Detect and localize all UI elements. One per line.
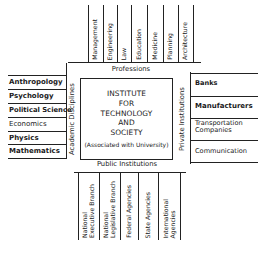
discipline-item: Anthropology [9, 78, 63, 86]
public-institutions-heading: Public Institutions [84, 160, 170, 168]
profession-label: Management [92, 19, 99, 60]
divider [193, 5, 194, 62]
public-institution-label: Federal Agencies [126, 185, 133, 238]
divider [8, 144, 66, 145]
public-institution-label: InternationalAgencies [163, 199, 176, 239]
discipline-item: Mathematics [9, 147, 60, 155]
profession-item: Education [131, 6, 147, 60]
public-institution-label: NationalLegislative Branch [103, 181, 116, 238]
divider [180, 172, 181, 240]
profession-label: Engineering [107, 23, 114, 60]
academic-disciplines-heading: Academic Disciplines [68, 80, 76, 158]
public-institution-item: NationalExecutive Branch [79, 175, 99, 238]
profession-label: Education [136, 29, 143, 60]
public-institution-item: InternationalAgencies [159, 175, 180, 238]
label-line: Agencies [169, 210, 176, 238]
divider [190, 140, 258, 141]
profession-item: Management [88, 6, 103, 60]
profession-label: Medicine [152, 32, 159, 60]
label-line: Executive Branch [88, 184, 95, 238]
divider [190, 162, 258, 163]
profession-item: Law [117, 6, 131, 60]
private-institutions-heading: Private Institutions [178, 80, 186, 158]
professions-heading: Professions [92, 65, 170, 73]
profession-item: Architecture [178, 6, 193, 60]
profession-label: Planning [167, 33, 174, 60]
discipline-item: Political Science [9, 106, 72, 114]
institute-title-line: TECHNOLOGY [81, 109, 172, 119]
profession-item: Planning [163, 6, 178, 60]
profession-label: Law [121, 48, 128, 60]
divider [8, 75, 66, 76]
institute-box: INSTITUTE FOR TECHNOLOGY AND SOCIETY (As… [80, 78, 173, 160]
divider [8, 158, 66, 159]
discipline-item: Psychology [9, 92, 53, 100]
institute-title-line: AND [81, 118, 172, 128]
divider [8, 117, 66, 118]
private-institution-item: Transportation Companies [195, 120, 243, 135]
public-institution-item: Federal Agencies [121, 175, 138, 238]
discipline-item: Physics [9, 134, 39, 142]
private-institution-line: Companies [195, 127, 243, 134]
profession-item: Engineering [103, 6, 117, 60]
divider [8, 131, 66, 132]
profession-item: Medicine [147, 6, 163, 60]
private-institution-item: Manufacturers [195, 103, 253, 110]
divider [190, 73, 258, 74]
divider [8, 103, 66, 104]
private-institution-item: Banks [195, 80, 217, 87]
public-institution-label: State Agencies [145, 192, 152, 238]
discipline-item: Economics [9, 120, 47, 128]
public-institution-label: NationalExecutive Branch [82, 184, 95, 238]
institute-title-line: INSTITUTE [81, 89, 172, 99]
public-institution-item: State Agencies [139, 175, 158, 238]
institute-title-line: SOCIETY [81, 128, 172, 138]
divider [8, 89, 66, 90]
institute-title-line: FOR [81, 99, 172, 109]
institute-subtitle: (Associated with University) [81, 141, 172, 148]
professions-baseline [68, 62, 201, 63]
profession-label: Architecture [182, 22, 189, 60]
public-baseline [74, 172, 186, 173]
divider [190, 96, 258, 97]
public-institution-item: NationalLegislative Branch [100, 175, 120, 238]
private-institution-item: Communication [195, 148, 247, 155]
label-line: Legislative Branch [109, 181, 116, 238]
